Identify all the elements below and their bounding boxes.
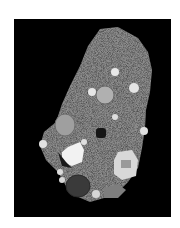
inclusion bbox=[55, 114, 75, 136]
rock-section-image bbox=[0, 0, 180, 228]
inclusion bbox=[88, 88, 96, 96]
inclusion bbox=[96, 86, 114, 104]
inclusion bbox=[39, 140, 47, 148]
inclusion bbox=[96, 128, 106, 138]
inclusion bbox=[112, 114, 118, 120]
inclusion bbox=[129, 83, 139, 93]
inclusion bbox=[111, 68, 119, 76]
inclusion bbox=[140, 127, 148, 135]
inclusion bbox=[66, 175, 90, 197]
